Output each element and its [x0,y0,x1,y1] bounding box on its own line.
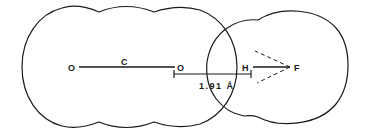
atom-label-o-right: O [177,63,184,73]
distance-label: 1.91 Å [199,81,235,91]
atom-label-h: H [242,63,249,73]
atom-label-f: F [294,63,300,73]
atom-label-c: C [121,57,128,67]
dashed-line-lower [257,67,290,83]
dashed-line-upper [255,51,290,67]
distance-dimension [174,70,251,78]
atom-label-o-left: O [68,63,75,73]
co2-hf-diagram: O C O H F 1.91 Å [0,0,365,133]
